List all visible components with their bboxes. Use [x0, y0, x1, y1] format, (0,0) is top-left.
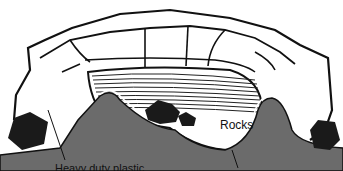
rock-right: [310, 120, 340, 150]
rocks-label: Rocks: [220, 118, 253, 132]
stone-joint: [255, 52, 275, 70]
stone-joint: [70, 40, 90, 62]
pond-diagram: [0, 0, 343, 171]
plastic-label: Heavy duty plastic: [55, 162, 144, 171]
stone-ledge: [62, 64, 80, 72]
stone-joint: [186, 26, 188, 66]
